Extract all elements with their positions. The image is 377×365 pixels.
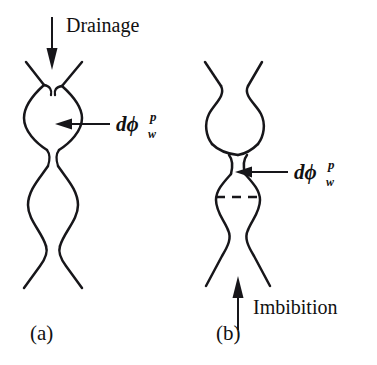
meniscus-hook-left — [44, 85, 51, 95]
diagram-canvas: Drainage — [0, 0, 377, 365]
panel-b: Imbibition dϕ p w (b) — [205, 62, 337, 345]
pore-b-bulb1-left-upper — [206, 86, 222, 144]
pore-a-throat1-left — [47, 150, 49, 166]
pore-a-outlet-left — [24, 246, 47, 288]
pore-b-inlet-right — [248, 62, 262, 86]
drainage-label: Drainage — [66, 14, 139, 37]
drainage-arrow — [47, 17, 58, 70]
dphi-a-subscript: w — [148, 127, 157, 141]
pore-a-bulb2-right — [58, 166, 78, 246]
pore-b-bulb1-left-lower — [212, 144, 238, 155]
pore-b-bulb2-left — [216, 174, 231, 230]
dphi-a-base: dϕ — [116, 112, 139, 136]
imbibition-label: Imbibition — [253, 296, 337, 318]
dphi-b-label: dϕ p w — [294, 157, 335, 189]
dphi-a-superscript: p — [149, 109, 157, 124]
caption-a: (a) — [30, 321, 53, 345]
pore-a-outlet-right — [59, 246, 82, 288]
dphi-b-base: dϕ — [294, 160, 317, 184]
caption-b: (b) — [216, 321, 241, 345]
drainage-arrow-head — [47, 48, 58, 70]
pore-a-inlet-right — [62, 62, 82, 86]
pore-b-neck-left — [229, 155, 232, 174]
pore-b-outlet-right — [246, 230, 270, 286]
pore-a-bulb2-left — [28, 166, 48, 246]
imbibition-arrow-head — [233, 276, 244, 298]
dphi-b-superscript: p — [327, 157, 335, 172]
dphi-b-subscript: w — [326, 175, 335, 189]
pore-b-bulb1-right-upper — [247, 86, 264, 144]
dphi-a-arrow-head — [55, 119, 72, 130]
pore-b-inlet-left — [205, 62, 221, 86]
pore-a-inlet-left — [26, 62, 44, 85]
panel-a: Drainage — [24, 14, 157, 345]
pore-a-throat1-right — [57, 150, 59, 166]
pore-b-outlet-left — [206, 230, 230, 286]
figure-root: Drainage — [0, 0, 377, 365]
pore-a-bulb1-right — [59, 86, 82, 150]
pore-a-bulb1-left — [24, 85, 47, 150]
dphi-a-label: dϕ p w — [116, 109, 157, 141]
pore-b-bulb1-right-lower — [238, 144, 258, 155]
pore-b-bulb2-right — [245, 174, 260, 230]
meniscus-hook-right — [55, 86, 62, 95]
